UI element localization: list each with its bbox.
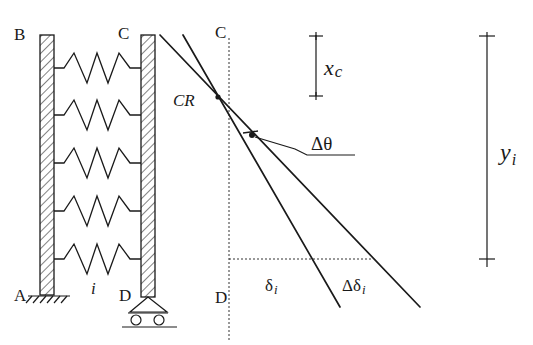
- label-delta-delta-i: Δδi: [342, 276, 366, 297]
- fixed-support-icon: [26, 296, 70, 303]
- label-rotation-increment: Δθ: [311, 133, 332, 154]
- center-of-rigidity-point: [215, 94, 220, 99]
- deflection-line-outer: [160, 35, 420, 307]
- label-yi: yi: [498, 139, 516, 168]
- spring-1: [54, 53, 141, 83]
- spring-3: [54, 148, 141, 178]
- spring-2: [54, 100, 141, 130]
- deflection-lines: [160, 35, 420, 307]
- label-delta-i: δi: [265, 276, 278, 297]
- springs: [54, 53, 141, 274]
- label-C-deflected: C: [215, 23, 226, 42]
- label-D-deflected: D: [215, 288, 227, 307]
- label-B: B: [14, 25, 25, 44]
- rotation-marker: [243, 131, 355, 155]
- label-D-wall: D: [119, 286, 131, 305]
- spring-4: [54, 196, 141, 226]
- label-center-of-rigidity: CR: [173, 91, 195, 110]
- label-C-wall: C: [118, 24, 129, 43]
- left-wall: [40, 35, 54, 295]
- label-xc: xc: [323, 55, 343, 81]
- label-spring-index: i: [91, 279, 96, 298]
- wall-spring-diagram: B C A D i C D CR Δθ δi Δδi xc yi: [0, 0, 533, 345]
- xc-dimension: [309, 32, 323, 100]
- label-A: A: [14, 286, 27, 305]
- right-wall: [141, 35, 155, 297]
- reference-lines: [229, 38, 372, 342]
- yi-dimension: [479, 32, 495, 267]
- spring-5: [54, 244, 141, 274]
